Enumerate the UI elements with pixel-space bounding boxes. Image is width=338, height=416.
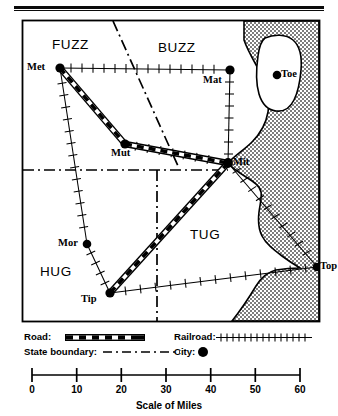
city-label-mat: Mat	[203, 75, 222, 86]
scale-tick-50: 50	[245, 385, 265, 395]
state-label-hug: HUG	[40, 265, 72, 279]
city-label-met: Met	[27, 62, 45, 73]
city-label-top: Top	[320, 261, 337, 272]
state-label-tug: TUG	[190, 228, 220, 242]
legend-symbol-city	[198, 347, 208, 357]
scale-tick-60: 60	[290, 385, 310, 395]
city-dot-toe	[273, 71, 282, 80]
legend-label-railroad: Railroad:	[174, 332, 216, 342]
scale-tick-10: 10	[67, 385, 87, 395]
city-label-tip: Tip	[81, 294, 97, 305]
city-label-mit: Mit	[233, 157, 249, 168]
city-dot-met	[55, 63, 64, 72]
city-label-mut: Mut	[111, 148, 130, 159]
city-dot-mor	[83, 240, 92, 249]
legend-symbol-road	[65, 334, 145, 341]
scale-tick-20: 20	[111, 385, 131, 395]
state-label-fuzz: FUZZ	[52, 38, 89, 52]
scale-caption: Scale of Miles	[0, 401, 338, 411]
city-label-toe: Toe	[281, 69, 297, 80]
scale-bar	[32, 368, 300, 382]
state-label-buzz: BUZZ	[158, 41, 196, 55]
map-figure: FUZZ BUZZ HUG TUG Met Mat Toe Mut Mit Mo…	[0, 0, 338, 416]
city-label-mor: Mor	[58, 238, 78, 249]
scale-tick-30: 30	[156, 385, 176, 395]
scale-tick-0: 0	[22, 385, 42, 395]
legend-label-state-boundary: State boundary:	[24, 347, 97, 357]
legend-label-city: City:	[174, 347, 195, 357]
city-dot-tip	[105, 288, 114, 297]
scale-tick-40: 40	[201, 385, 221, 395]
legend-label-road: Road:	[24, 332, 51, 342]
city-dot-mit	[223, 158, 233, 168]
legend-symbol-railroad	[216, 334, 312, 342]
city-dot-mat	[225, 65, 234, 74]
